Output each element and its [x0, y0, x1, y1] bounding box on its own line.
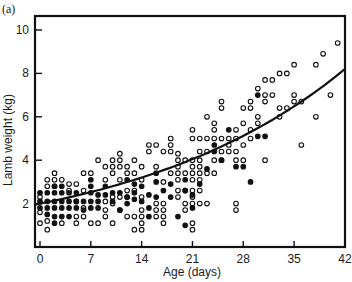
filled-data-point [147, 193, 152, 198]
open-data-point [139, 221, 144, 226]
open-data-point [234, 158, 239, 163]
y-tick-label: 6 [22, 110, 29, 124]
open-data-point [263, 99, 268, 104]
y-tick-label: 8 [22, 66, 29, 80]
open-data-point [241, 158, 246, 163]
open-data-point [190, 164, 195, 169]
filled-data-point [67, 206, 72, 211]
open-data-point [118, 177, 123, 182]
filled-data-point [59, 184, 64, 189]
open-data-point [212, 158, 217, 163]
open-data-point [234, 128, 239, 133]
filled-data-point [45, 206, 50, 211]
open-data-point [154, 201, 159, 206]
filled-data-point [154, 180, 159, 185]
open-data-point [190, 128, 195, 133]
filled-data-point [263, 134, 268, 139]
open-data-point [226, 136, 231, 141]
x-tick-label: 14 [135, 252, 149, 266]
open-data-point [139, 227, 144, 232]
open-data-point [263, 93, 268, 98]
filled-data-point [81, 208, 86, 213]
x-tick-label: 35 [287, 252, 301, 266]
data-points [38, 41, 340, 232]
y-tick-label: 4 [22, 153, 29, 167]
filled-data-point [212, 143, 217, 148]
open-data-point [292, 99, 297, 104]
open-data-point [52, 177, 57, 182]
open-data-point [205, 201, 210, 206]
open-data-point [161, 208, 166, 213]
open-data-point [59, 221, 64, 226]
filled-data-point [205, 167, 210, 172]
open-data-point [183, 208, 188, 213]
open-data-point [255, 86, 260, 91]
open-data-point [154, 208, 159, 213]
open-data-point [81, 188, 86, 193]
filled-data-point [45, 190, 50, 195]
filled-data-point [197, 182, 202, 187]
open-data-point [328, 93, 333, 98]
open-data-point [139, 214, 144, 219]
filled-data-point [255, 134, 260, 139]
filled-data-point [59, 214, 64, 219]
filled-data-point [59, 206, 64, 211]
open-data-point [125, 214, 130, 219]
open-data-point [197, 201, 202, 206]
filled-data-point [132, 190, 137, 195]
open-data-point [292, 93, 297, 98]
open-data-point [74, 182, 79, 187]
open-data-point [176, 177, 181, 182]
open-data-point [190, 136, 195, 141]
open-data-point [219, 106, 224, 111]
open-data-point [125, 164, 130, 169]
filled-data-point [147, 206, 152, 211]
filled-data-point [110, 190, 115, 195]
open-data-point [168, 136, 173, 141]
filled-data-point [96, 193, 101, 198]
open-data-point [132, 158, 137, 163]
open-data-point [132, 227, 137, 232]
filled-data-point [89, 177, 94, 182]
filled-data-point [147, 214, 152, 219]
filled-data-point [234, 164, 239, 169]
open-data-point [321, 52, 326, 57]
open-data-point [118, 158, 123, 163]
filled-data-point [168, 195, 173, 200]
open-data-point [161, 149, 166, 154]
filled-data-point [67, 190, 72, 195]
open-data-point [132, 171, 137, 176]
plot-frame [35, 16, 345, 247]
filled-data-point [241, 164, 246, 169]
y-axis-title: Lamb weight (kg) [1, 94, 15, 186]
open-data-point [154, 214, 159, 219]
open-data-point [212, 171, 217, 176]
open-data-point [335, 41, 340, 46]
filled-data-point [89, 206, 94, 211]
filled-data-point [154, 195, 159, 200]
x-tick-label: 7 [87, 252, 94, 266]
open-data-point [205, 136, 210, 141]
filled-data-point [52, 184, 57, 189]
filled-data-point [38, 206, 43, 211]
filled-data-point [183, 188, 188, 193]
filled-data-point [190, 193, 195, 198]
open-data-point [132, 214, 137, 219]
open-data-point [81, 214, 86, 219]
open-data-point [190, 227, 195, 232]
filled-data-point [125, 195, 130, 200]
open-data-point [241, 121, 246, 126]
open-data-point [212, 128, 217, 133]
open-data-point [110, 221, 115, 226]
filled-data-point [139, 199, 144, 204]
open-data-point [96, 158, 101, 163]
filled-data-point [67, 199, 72, 204]
filled-data-point [226, 128, 231, 133]
open-data-point [110, 171, 115, 176]
filled-data-point [125, 201, 130, 206]
scatter-chart: 071421283542246810 Age (days) Lamb weigh… [0, 0, 352, 282]
filled-data-point [52, 221, 57, 226]
filled-data-point [139, 184, 144, 189]
open-data-point [103, 208, 108, 213]
open-data-point [103, 199, 108, 204]
